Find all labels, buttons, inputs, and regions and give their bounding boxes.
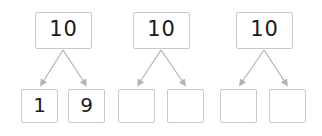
part-box-3-left[interactable] <box>220 89 257 123</box>
part-box-3-right[interactable] <box>269 89 306 123</box>
whole-box-3[interactable]: 10 <box>236 12 293 49</box>
number-bond-3: 10 <box>0 0 322 136</box>
whole-value-3: 10 <box>250 19 279 40</box>
number-bond-worksheet: 10 1 9 10 10 <box>0 0 322 136</box>
